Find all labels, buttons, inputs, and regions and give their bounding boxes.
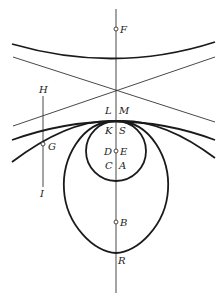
geometric-diagram: F H G I L M K S D E C A B R [0, 0, 224, 299]
label-b: B [119, 217, 127, 228]
label-c: C [105, 160, 113, 171]
label-d: D [103, 146, 112, 157]
label-h: H [38, 84, 48, 95]
label-f: F [119, 24, 128, 35]
upper-hyperbola-branch [12, 42, 215, 59]
point-e [114, 149, 118, 153]
label-e: E [119, 146, 128, 157]
label-a: A [118, 160, 126, 171]
label-r: R [117, 255, 126, 266]
point-f [114, 27, 118, 31]
outer-curve-through-g [12, 121, 215, 162]
label-l: L [104, 105, 112, 116]
label-g: G [48, 141, 56, 152]
point-g [41, 142, 45, 146]
label-k: K [104, 125, 113, 136]
point-b [114, 220, 118, 224]
lower-hyperbola-branch [12, 122, 215, 141]
label-m: M [118, 105, 130, 116]
label-s: S [119, 125, 126, 136]
label-i: I [39, 188, 45, 199]
